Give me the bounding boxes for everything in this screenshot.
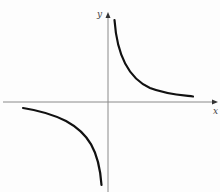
- plot-area: [0, 0, 220, 192]
- x-axis-label: x: [213, 107, 218, 116]
- curve-first-quadrant: [115, 20, 194, 97]
- x-axis-arrow-icon: [212, 100, 218, 105]
- hyperbola-graph: y x: [0, 0, 220, 192]
- curve-third-quadrant: [23, 108, 102, 185]
- y-axis-label: y: [97, 10, 102, 19]
- y-axis-arrow-icon: [106, 12, 111, 18]
